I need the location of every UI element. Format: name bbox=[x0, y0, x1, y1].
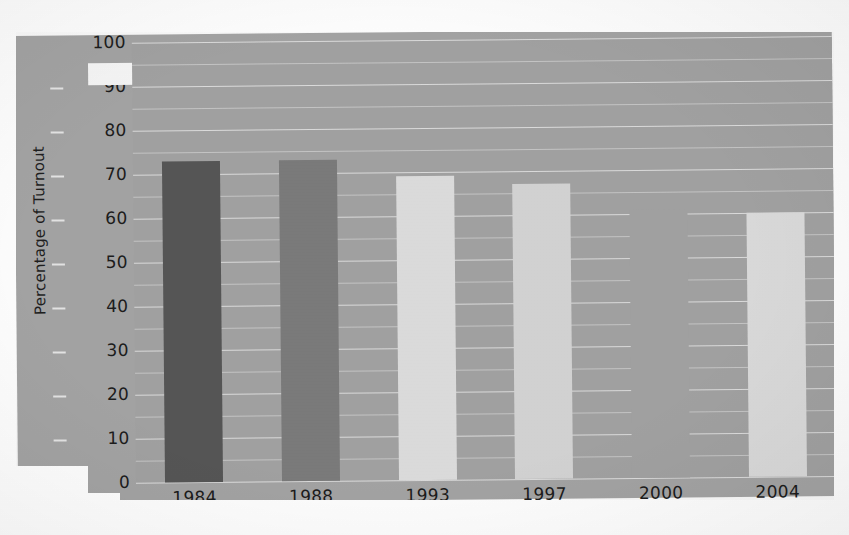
bar-1993 bbox=[396, 176, 457, 480]
gridline-minor-35 bbox=[135, 322, 835, 330]
gridline-minor-55 bbox=[134, 234, 834, 242]
gridline-minor-95 bbox=[132, 58, 832, 66]
bar-1988 bbox=[279, 160, 340, 482]
chart-tilt-wrapper: 1009080706050403020100 Percentage of Tur… bbox=[0, 0, 849, 535]
y-tick-label-70: 70 bbox=[81, 166, 127, 183]
y-tick-mark-10 bbox=[54, 439, 67, 441]
gridline-minor-5 bbox=[136, 454, 836, 462]
page-margin-top bbox=[0, 0, 849, 32]
y-tick-mark-60 bbox=[51, 219, 64, 221]
gridline-minor-25 bbox=[135, 366, 835, 374]
bar-2004 bbox=[746, 212, 807, 477]
gridline-minor-15 bbox=[135, 410, 835, 418]
y-tick-label-60: 60 bbox=[81, 210, 127, 227]
gridline-30 bbox=[135, 344, 835, 352]
y-axis: 1009080706050403020100 bbox=[54, 43, 130, 484]
scanned-page: 1009080706050403020100 Percentage of Tur… bbox=[0, 0, 849, 535]
gridline-60 bbox=[133, 212, 833, 220]
bar-chart: 1009080706050403020100 Percentage of Tur… bbox=[14, 28, 836, 504]
page-margin-bottom bbox=[120, 500, 849, 535]
y-tick-label-100: 100 bbox=[80, 34, 126, 51]
y-tick-label-0: 0 bbox=[84, 474, 130, 491]
gridline-minor-75 bbox=[133, 146, 833, 154]
plot-area bbox=[132, 36, 836, 483]
y-tick-label-30: 30 bbox=[83, 342, 129, 359]
gridline-90 bbox=[132, 80, 832, 88]
gridline-100 bbox=[132, 36, 832, 44]
y-axis-title: Percentage of Turnout bbox=[30, 131, 50, 331]
gridline-10 bbox=[136, 432, 836, 440]
y-tick-label-80: 80 bbox=[81, 122, 127, 139]
y-tick-label-10: 10 bbox=[84, 430, 130, 447]
y-tick-mark-50 bbox=[52, 263, 65, 265]
gridline-80 bbox=[133, 124, 833, 132]
y-tick-mark-30 bbox=[53, 351, 66, 353]
gridline-20 bbox=[135, 388, 835, 396]
y-tick-label-50: 50 bbox=[82, 254, 128, 271]
page-notch-bottom-left-lower bbox=[0, 493, 120, 535]
gridline-70 bbox=[133, 168, 833, 176]
bar-2000 bbox=[629, 209, 690, 478]
page-margin-right bbox=[834, 0, 849, 535]
y-tick-mark-70 bbox=[51, 175, 64, 177]
bar-1997 bbox=[512, 184, 573, 479]
page-margin-left bbox=[0, 0, 16, 500]
y-tick-mark-20 bbox=[53, 395, 66, 397]
y-tick-label-40: 40 bbox=[82, 298, 128, 315]
y-tick-mark-80 bbox=[51, 131, 64, 133]
y-tick-mark-90 bbox=[50, 87, 63, 89]
gridline-50 bbox=[134, 256, 834, 264]
gridline-minor-65 bbox=[133, 190, 833, 198]
y-tick-label-20: 20 bbox=[83, 386, 129, 403]
gridline-minor-85 bbox=[132, 102, 832, 110]
bar-1984 bbox=[162, 161, 223, 483]
x-tick-label-2004: 2004 bbox=[719, 481, 836, 502]
gridline-minor-45 bbox=[134, 278, 834, 286]
gridline-40 bbox=[134, 300, 834, 308]
y-tick-mark-40 bbox=[52, 307, 65, 309]
